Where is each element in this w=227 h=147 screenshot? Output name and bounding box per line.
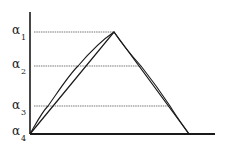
alpha-cut-diagram: α 1 α 2 α 3 α 4 — [0, 0, 227, 147]
svg-text:α: α — [12, 57, 20, 71]
svg-text:2: 2 — [21, 67, 26, 76]
svg-text:4: 4 — [21, 134, 26, 143]
alpha3-label: α 3 — [12, 98, 26, 117]
alpha1-label: α 1 — [12, 23, 26, 42]
svg-text:α: α — [12, 23, 20, 37]
svg-text:α: α — [12, 98, 20, 112]
svg-text:3: 3 — [21, 108, 26, 117]
triangular-membership-function — [30, 32, 189, 134]
svg-text:1: 1 — [21, 33, 26, 42]
alpha2-label: α 2 — [12, 57, 26, 76]
svg-text:α: α — [12, 124, 20, 138]
alpha4-label: α 4 — [12, 124, 26, 143]
curved-membership-approximation — [30, 32, 189, 134]
